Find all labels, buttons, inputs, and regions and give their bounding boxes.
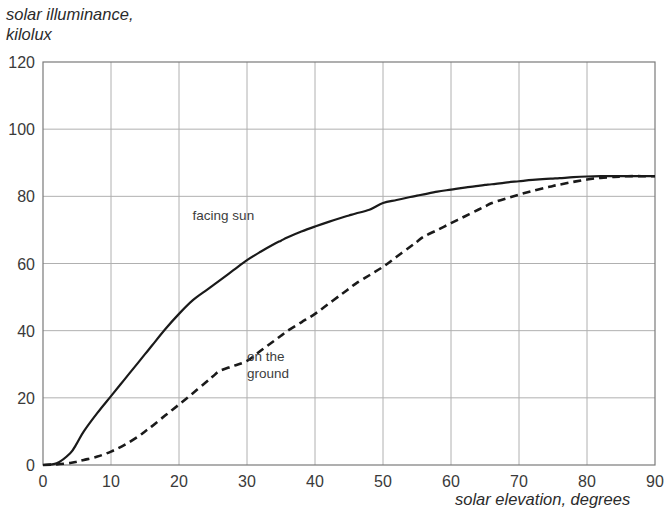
series-line-2 xyxy=(43,176,655,465)
svg-text:50: 50 xyxy=(374,473,392,490)
svg-text:100: 100 xyxy=(8,121,35,138)
axis-tick-labels: 0204060801001200102030405060708090 xyxy=(8,54,664,490)
annotation-on-the-ground: on theground xyxy=(247,349,289,381)
svg-text:60: 60 xyxy=(442,473,460,490)
svg-text:70: 70 xyxy=(510,473,528,490)
series-line-1 xyxy=(43,176,655,465)
series-annotations: facing sunon theground xyxy=(193,208,289,381)
svg-text:20: 20 xyxy=(17,390,35,407)
svg-text:80: 80 xyxy=(578,473,596,490)
chart-plot-area: 0204060801001200102030405060708090 facin… xyxy=(0,0,669,516)
svg-text:0: 0 xyxy=(26,457,35,474)
svg-text:30: 30 xyxy=(238,473,256,490)
svg-text:90: 90 xyxy=(646,473,664,490)
annotation-facing-sun: facing sun xyxy=(193,208,255,223)
svg-text:80: 80 xyxy=(17,188,35,205)
svg-text:10: 10 xyxy=(102,473,120,490)
svg-text:120: 120 xyxy=(8,54,35,71)
gridlines xyxy=(43,62,655,465)
svg-text:0: 0 xyxy=(39,473,48,490)
svg-text:40: 40 xyxy=(17,323,35,340)
chart-figure: solar illuminance,kilolux solar elevatio… xyxy=(0,0,669,516)
svg-text:60: 60 xyxy=(17,256,35,273)
svg-text:40: 40 xyxy=(306,473,324,490)
svg-text:20: 20 xyxy=(170,473,188,490)
data-series xyxy=(43,176,655,465)
